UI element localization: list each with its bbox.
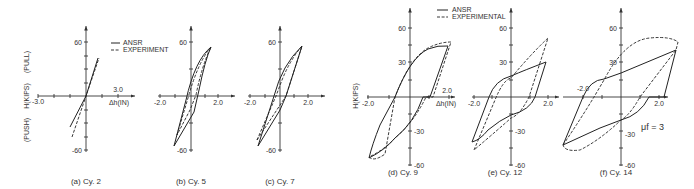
svg-text:Δh(IN): Δh(IN) [109, 99, 129, 107]
pull-label: (PULL) [23, 51, 31, 73]
svg-text:ANSR: ANSR [123, 39, 142, 46]
push-label: (PUSH) [23, 118, 31, 142]
svg-text:2.0: 2.0 [442, 87, 452, 94]
svg-text:-60: -60 [266, 147, 276, 154]
caption-c: (c) Cy. 7 [265, 177, 295, 186]
panel-f: 60 30 -30 -60 -2.0 2.0 μf = 3 (f) Cy. 14 [563, 8, 678, 177]
svg-text:30: 30 [398, 59, 406, 66]
svg-text:2.0: 2.0 [654, 100, 664, 107]
caption-d: (d) Cy. 9 [388, 168, 419, 177]
svg-text:-2.0: -2.0 [362, 100, 374, 107]
svg-text:60: 60 [499, 25, 507, 32]
caption-e: (e) Cy. 12 [488, 168, 523, 177]
svg-text:-30: -30 [625, 131, 635, 138]
svg-text:3.0: 3.0 [113, 86, 123, 93]
svg-text:EXPERIMENTAL: EXPERIMENTAL [452, 13, 506, 20]
y-axis-label: H(KIPS) [23, 83, 31, 109]
hysteresis-figure: (PULL) H(KIPS) (PUSH) 60 -60 -3.0 3.0 Δh… [0, 0, 694, 189]
svg-text:60: 60 [179, 39, 187, 46]
caption-a: (a) Cy. 2 [71, 177, 102, 186]
panel-a: 60 -60 -3.0 3.0 Δh(IN) ANSR EXPERIMENT (… [32, 26, 169, 186]
svg-text:-2.0: -2.0 [154, 99, 166, 106]
left-y-labels: (PULL) H(KIPS) (PUSH) [23, 51, 31, 142]
svg-text:60: 60 [74, 39, 82, 46]
caption-b: (b) Cy. 5 [176, 177, 207, 186]
svg-text:30: 30 [499, 59, 507, 66]
svg-text:-60: -60 [177, 147, 187, 154]
svg-text:-30: -30 [414, 128, 424, 135]
svg-text:60: 60 [268, 39, 276, 46]
svg-text:2.0: 2.0 [213, 99, 223, 106]
legend-left: ANSR EXPERIMENT [111, 39, 169, 53]
svg-text:-2.0: -2.0 [244, 99, 256, 106]
panel-e: 60 30 -30 -60 -2.0 2.0 (e) Cy. 12 [468, 8, 559, 177]
ductility-annotation: μf = 3 [641, 122, 664, 132]
svg-text:2.0: 2.0 [543, 100, 553, 107]
svg-text:-30: -30 [515, 128, 525, 135]
svg-text:2.0: 2.0 [303, 99, 313, 106]
legend-right: ANSR EXPERIMENTAL [437, 6, 506, 20]
svg-text:60: 60 [398, 25, 406, 32]
svg-text:EXPERIMENT: EXPERIMENT [123, 46, 169, 53]
caption-f: (f) Cy. 14 [600, 168, 633, 177]
panel-c: 60 -60 -2.0 2.0 (c) Cy. 7 [244, 26, 325, 186]
svg-text:ANSR: ANSR [452, 6, 471, 13]
svg-text:-3.0: -3.0 [32, 98, 44, 105]
svg-text:-60: -60 [72, 147, 82, 154]
svg-text:Δh(IN): Δh(IN) [436, 100, 456, 108]
svg-text:-2.0: -2.0 [468, 100, 480, 107]
y-axis-label-right: H(KIPS) [352, 83, 360, 109]
panel-d: H(KIPS) 60 30 -30 -60 -2.0 2.0 Δh(IN) AN… [352, 6, 506, 177]
svg-text:60: 60 [609, 25, 617, 32]
